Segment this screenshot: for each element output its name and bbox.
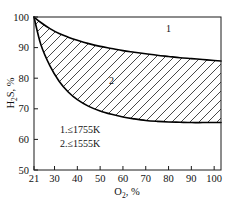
x-axis-title-suffix: , % <box>126 186 140 197</box>
x-tick-label: 50 <box>95 173 106 184</box>
y-tick-label: 80 <box>19 73 30 84</box>
hatch-line <box>232 17 243 170</box>
hatch-line <box>241 17 243 170</box>
legend-entry-1: 1.≤1755K <box>60 124 101 135</box>
chart-figure: 2130405060708090100 5060708090100 1 2 1.… <box>0 0 243 202</box>
y-axis-title: H2S, % <box>5 77 19 108</box>
hatch-line <box>223 17 243 170</box>
y-tick-label: 70 <box>19 103 30 114</box>
chart-canvas: 2130405060708090100 5060708090100 1 2 1.… <box>0 0 243 202</box>
y-tick-label: 100 <box>13 12 29 23</box>
y-axis-title-main2: S, % <box>5 77 16 97</box>
x-tick-label: 21 <box>29 173 40 184</box>
x-tick-label: 40 <box>72 173 83 184</box>
x-tick-label: 60 <box>118 173 129 184</box>
x-tick-label: 70 <box>140 173 151 184</box>
x-tick-label: 90 <box>186 173 197 184</box>
x-tick-label: 80 <box>163 173 174 184</box>
x-axis-title: O2, % <box>114 186 140 200</box>
curve-label-1: 1 <box>166 23 171 34</box>
y-tick-label: 90 <box>19 42 30 53</box>
x-axis-tick-labels: 2130405060708090100 <box>29 173 222 184</box>
curve-label-2: 2 <box>109 75 114 86</box>
y-tick-label: 60 <box>19 134 30 145</box>
x-tick-label: 100 <box>206 173 222 184</box>
y-tick-label: 50 <box>19 165 30 176</box>
x-tick-label: 30 <box>49 173 60 184</box>
legend-entry-2: 2.≤1555K <box>60 138 101 149</box>
